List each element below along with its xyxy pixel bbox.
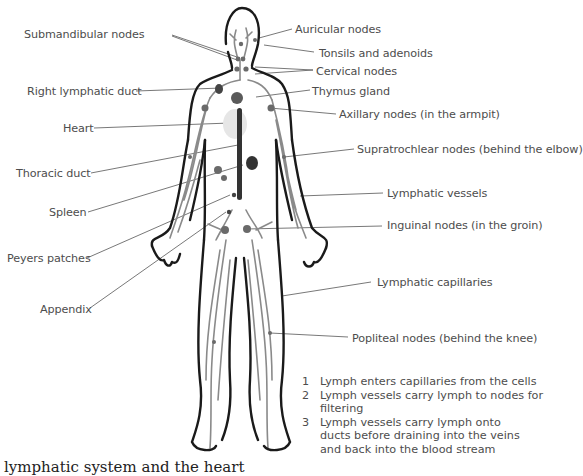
step-number: 2 (302, 389, 320, 416)
label-appendix: Appendix (40, 303, 92, 316)
label-inguinal-nodes: Inguinal nodes (in the groin) (387, 219, 543, 232)
right-lymphatic-duct-node (215, 84, 223, 94)
thymus-shape (231, 92, 243, 104)
step-item: 2 Lymph vessels carry lymph to nodes for… (302, 389, 560, 416)
heart-shape (223, 109, 247, 139)
label-tonsils-and-adenoids: Tonsils and adenoids (319, 47, 433, 60)
label-thoracic-duct: Thoracic duct (16, 167, 91, 180)
spleen-shape (246, 156, 258, 170)
step-item: 1 Lymph enters capillaries from the cell… (302, 375, 560, 389)
label-lymphatic-capillaries: Lymphatic capillaries (377, 276, 493, 289)
step-number: 1 (302, 375, 320, 389)
process-steps-list: 1 Lymph enters capillaries from the cell… (302, 375, 560, 457)
label-heart: Heart (63, 122, 94, 135)
label-popliteal-nodes: Popliteal nodes (behind the knee) (352, 332, 537, 345)
thoracic-duct-shape (237, 108, 242, 200)
label-peyers-patches: Peyers patches (7, 252, 91, 265)
step-text: Lymph enters capillaries from the cells (320, 375, 560, 389)
step-item: 3 Lymph vessels carry lymph onto ducts b… (302, 416, 560, 457)
step-text: Lymph vessels carry lymph onto ducts bef… (320, 416, 525, 457)
label-right-lymphatic-duct: Right lymphatic duct (27, 85, 142, 98)
appendix (227, 210, 231, 214)
step-number: 3 (302, 416, 320, 457)
peyers-patch (232, 193, 236, 197)
step-text: Lymph vessels carry lymph to nodes for f… (320, 389, 560, 416)
label-cervical-nodes: Cervical nodes (316, 65, 397, 78)
organs-and-nodes (188, 38, 286, 344)
label-axillary-nodes: Axillary nodes (in the armpit) (339, 108, 500, 121)
label-auricular-nodes: Auricular nodes (295, 23, 381, 36)
label-lymphatic-vessels: Lymphatic vessels (387, 187, 487, 200)
clipped-caption: lymphatic system and the heart (4, 458, 244, 476)
label-thymus-gland: Thymus gland (312, 85, 390, 98)
label-supratrochlear-nodes: Supratrochlear nodes (behind the elbow) (357, 143, 583, 156)
label-submandibular-nodes: Submandibular nodes (24, 28, 145, 41)
label-spleen: Spleen (49, 206, 87, 219)
